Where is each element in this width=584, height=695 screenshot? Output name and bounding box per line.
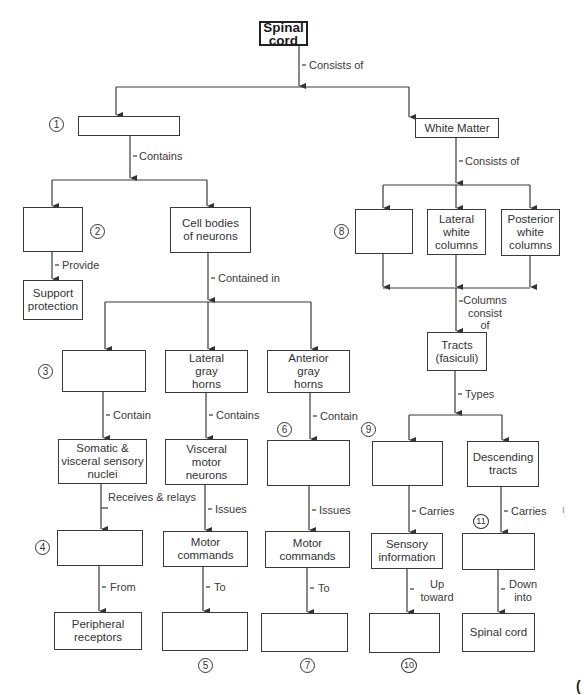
link-carries-1: Carries: [419, 505, 454, 518]
blank-number-7: 7: [300, 658, 315, 673]
blank-number-6: 6: [277, 422, 292, 437]
node-tracts: Tracts (fasiculi): [427, 332, 487, 371]
blank-node-4[interactable]: [57, 530, 143, 566]
node-cell-bodies: Cell bodies of neurons: [170, 207, 251, 253]
link-contained-in: Contained in: [218, 272, 280, 285]
stray-mark-corner: (: [576, 678, 581, 694]
node-motor-commands-2: Motor commands: [265, 531, 350, 568]
node-support-protection: Support protection: [23, 280, 83, 320]
link-columns-consist-of: Columns consist of: [462, 294, 508, 332]
blank-node-1[interactable]: [78, 116, 180, 136]
node-posterior-white-columns: Posterior white columns: [501, 209, 560, 256]
root-node-spinal-cord: Spinal cord: [259, 21, 308, 46]
blank-number-3: 3: [38, 364, 53, 379]
link-from: From: [110, 581, 136, 594]
blank-number-10: 10: [401, 658, 417, 673]
blank-node-8[interactable]: [355, 209, 413, 254]
link-issues: Issues: [215, 503, 247, 516]
blank-number-2: 2: [90, 224, 105, 239]
link-consists-of: Consists of: [309, 59, 363, 72]
node-spinal-cord-end: Spinal cord: [462, 613, 535, 652]
link-provide: Provide: [62, 259, 99, 272]
link-white-consists-of: Consists of: [465, 155, 519, 168]
link-to-1: To: [214, 581, 226, 594]
blank-number-8: 8: [334, 224, 349, 239]
node-lateral-gray-horns: Lateral gray horns: [165, 350, 248, 393]
node-motor-commands-1: Motor commands: [163, 531, 248, 567]
link-to-2: To: [318, 582, 330, 595]
node-lateral-white-columns: Lateral white columns: [427, 209, 486, 255]
node-sensory-nuclei: Somatic & visceral sensory nuclei: [58, 439, 147, 484]
blank-node-11[interactable]: [462, 533, 535, 570]
blank-node-9[interactable]: [372, 441, 443, 486]
link-anterior-contain: Contain: [320, 410, 358, 423]
blank-node-6[interactable]: [267, 440, 350, 486]
link-types: Types: [465, 388, 494, 401]
node-descending-tracts: Descending tracts: [467, 441, 539, 487]
link-contain: Contain: [113, 409, 151, 422]
blank-node-5[interactable]: [162, 612, 248, 651]
blank-node-3[interactable]: [62, 350, 146, 392]
link-up-toward: Up toward: [417, 578, 457, 603]
stray-mark: ı: [562, 504, 565, 515]
link-carries-2: Carries: [511, 505, 546, 518]
link-lateral-contains: Contains: [216, 409, 259, 422]
blank-number-9: 9: [361, 422, 376, 437]
blank-node-7[interactable]: [261, 613, 348, 652]
connector-lines: [0, 0, 584, 695]
node-visceral-motor-neurons: Visceral motor neurons: [165, 439, 248, 485]
link-issues-2: Issues: [319, 504, 351, 517]
link-down-into: Down into: [506, 578, 540, 603]
blank-node-10[interactable]: [369, 613, 440, 653]
blank-number-11: 11: [473, 514, 489, 529]
node-white-matter: White Matter: [415, 118, 499, 138]
node-sensory-information: Sensory information: [371, 533, 443, 569]
blank-number-1: 1: [49, 117, 64, 132]
link-contains: Contains: [139, 150, 182, 163]
blank-number-4: 4: [35, 540, 50, 555]
node-peripheral-receptors: Peripheral receptors: [54, 612, 142, 650]
node-anterior-gray-horns: Anterior gray horns: [267, 350, 350, 393]
link-receives-relays: Receives & relays: [108, 491, 154, 504]
blank-number-5: 5: [198, 658, 213, 673]
blank-node-2[interactable]: [23, 207, 83, 252]
